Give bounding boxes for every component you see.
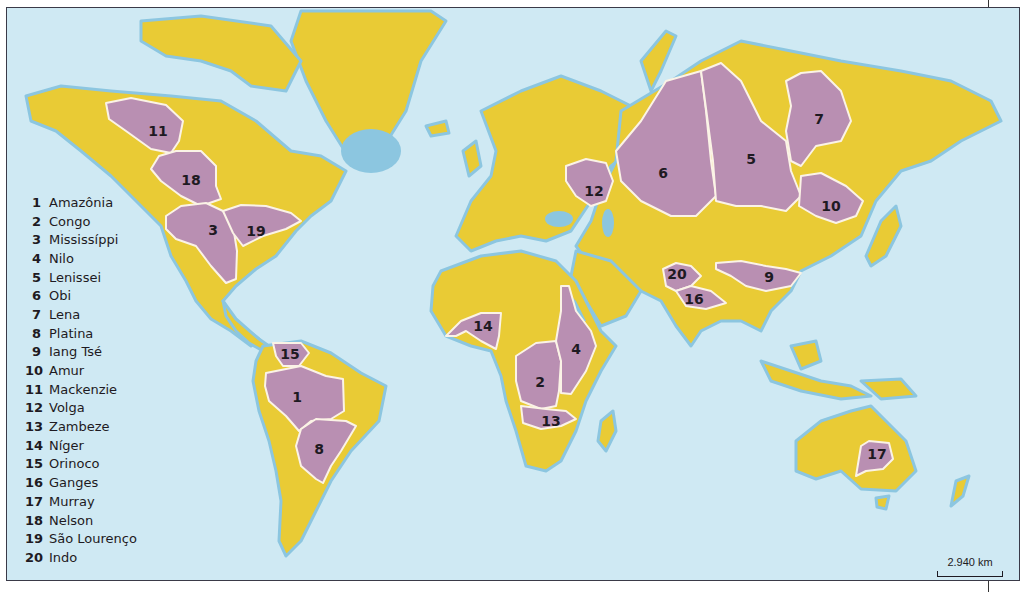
land-british-isles [463,141,481,176]
legend-number: 13 [25,419,49,434]
land-australia [796,406,916,491]
basin-label-18: 18 [181,172,200,188]
legend-label: Platina [49,326,93,341]
land-tasmania [876,496,889,509]
legend-number: 18 [25,513,49,528]
legend-item: 2Congo [25,212,175,231]
legend-item: 3Mississíppi [25,230,175,249]
legend-item: 1Amazônia [25,193,175,212]
legend-number: 11 [25,382,49,397]
land-iceland [426,121,449,136]
page-guide-line-bottom [988,580,989,592]
legend-item: 14Níger [25,436,175,455]
legend-item: 19São Lourenço [25,529,175,548]
basin-label-4: 4 [571,341,581,357]
legend-number: 7 [25,307,49,322]
legend-item: 13Zambeze [25,417,175,436]
legend-label: Nelson [49,513,93,528]
legend: 1Amazônia 2Congo 3Mississíppi 4Nilo 5Len… [25,193,175,567]
legend-number: 15 [25,456,49,471]
caspian-sea [602,209,614,237]
legend-item: 16Ganges [25,473,175,492]
scale-line [937,571,1003,577]
legend-label: Ganges [49,475,98,490]
legend-item: 8Platina [25,324,175,343]
legend-label: Mississíppi [49,232,118,247]
legend-item: 17Murray [25,492,175,511]
legend-label: Níger [49,438,84,453]
legend-number: 3 [25,232,49,247]
legend-number: 20 [25,550,49,565]
legend-label: Orinoco [49,456,99,471]
basin-label-7: 7 [814,111,824,127]
legend-label: Iang Tsé [49,344,102,359]
legend-item: 6Obi [25,286,175,305]
legend-number: 5 [25,270,49,285]
basin-label-10: 10 [821,198,841,214]
basin-label-16: 16 [684,291,703,307]
basin-label-6: 6 [658,165,668,181]
basin-label-1: 1 [292,389,302,405]
basin-label-20: 20 [667,266,687,282]
legend-item: 15Orinoco [25,455,175,474]
land-borneo [791,341,821,369]
legend-number: 10 [25,363,49,378]
basin-label-2: 2 [535,374,545,390]
legend-item: 4Nilo [25,249,175,268]
legend-label: Zambeze [49,419,110,434]
legend-number: 16 [25,475,49,490]
land-new-zealand [951,476,969,506]
hudson-bay [341,129,401,173]
legend-number: 14 [25,438,49,453]
legend-label: Lenissei [49,270,101,285]
legend-label: Amazônia [49,195,113,210]
basin-label-11: 11 [148,123,167,139]
world-map-frame: 1 2 3 4 5 6 7 8 9 10 11 12 13 14 15 16 1… [6,7,1020,581]
basin-label-15: 15 [280,346,299,362]
basin-label-13: 13 [541,413,560,429]
legend-item: 11Mackenzie [25,380,175,399]
land-indonesia [761,361,871,399]
legend-label: Murray [49,494,95,509]
legend-number: 4 [25,251,49,266]
legend-label: Mackenzie [49,382,117,397]
legend-item: 12Volga [25,399,175,418]
legend-item: 7Lena [25,305,175,324]
land-arctic-islands [141,16,301,91]
legend-label: Obi [49,288,71,303]
legend-number: 19 [25,531,49,546]
legend-number: 12 [25,400,49,415]
legend-label: São Lourenço [49,531,137,546]
basin-label-5: 5 [746,151,756,167]
basin-label-12: 12 [584,183,603,199]
legend-number: 2 [25,214,49,229]
basin-label-19: 19 [246,223,265,239]
basin-label-3: 3 [208,222,218,238]
legend-label: Volga [49,400,85,415]
legend-label: Congo [49,214,90,229]
basin-label-9: 9 [764,269,774,285]
legend-number: 9 [25,344,49,359]
legend-item: 18Nelson [25,511,175,530]
legend-item: 9Iang Tsé [25,343,175,362]
black-sea [545,211,573,227]
legend-label: Amur [49,363,84,378]
basin-label-17: 17 [867,446,886,462]
basin-label-8: 8 [314,441,324,457]
legend-label: Nilo [49,251,74,266]
legend-number: 6 [25,288,49,303]
legend-number: 17 [25,494,49,509]
land-madagascar [598,411,616,451]
legend-label: Indo [49,550,77,565]
legend-number: 1 [25,195,49,210]
legend-item: 10Amur [25,361,175,380]
scale-label: 2.940 km [935,556,1005,568]
legend-number: 8 [25,326,49,341]
legend-label: Lena [49,307,80,322]
basin-label-14: 14 [473,318,493,334]
scale-bar: 2.940 km [935,556,1005,576]
legend-item: 20Indo [25,548,175,567]
legend-item: 5Lenissei [25,268,175,287]
